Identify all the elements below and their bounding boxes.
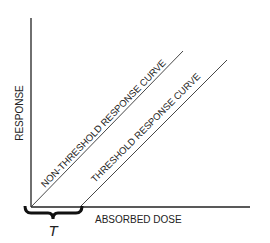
threshold-symbol: T — [48, 222, 59, 239]
x-axis-label: ABSORBED DOSE — [95, 214, 182, 225]
non-threshold-curve — [31, 51, 183, 207]
dose-response-diagram: T ABSORBED DOSE RESPONSE NON-THRESHOLD R… — [0, 0, 270, 243]
threshold-brace — [25, 206, 82, 219]
y-axis-label: RESPONSE — [14, 85, 25, 141]
